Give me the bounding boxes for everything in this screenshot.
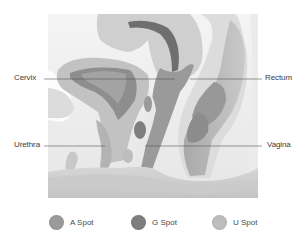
anatomy-diagram: Cervix Rectum Urethra Vagina A Spot G Sp… <box>0 0 308 243</box>
label-rectum: Rectum <box>265 73 292 83</box>
legend-label: A Spot <box>70 218 94 227</box>
legend: A Spot G Spot U Spot <box>0 212 308 232</box>
legend-item-u-spot: U Spot <box>212 212 257 232</box>
u-spot-marker <box>123 149 133 163</box>
a-spot-swatch-icon <box>49 215 64 230</box>
legend-label: G Spot <box>152 218 177 227</box>
u-spot-swatch-icon <box>212 215 227 230</box>
legend-label: U Spot <box>233 218 257 227</box>
label-vagina: Vagina <box>267 140 291 150</box>
label-cervix: Cervix <box>14 73 36 83</box>
legend-item-g-spot: G Spot <box>131 212 177 232</box>
a-spot-marker <box>144 96 152 112</box>
label-urethra: Urethra <box>14 140 40 150</box>
pelvic-cross-section-illustration <box>0 0 308 200</box>
g-spot-marker <box>134 121 146 139</box>
g-spot-swatch-icon <box>131 215 146 230</box>
legend-item-a-spot: A Spot <box>49 212 94 232</box>
